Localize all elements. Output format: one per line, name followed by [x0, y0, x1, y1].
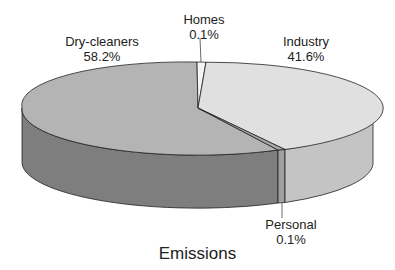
label-dry-cleaners: Dry-cleaners 58.2%	[52, 34, 152, 64]
label-personal-name: Personal	[256, 217, 326, 232]
label-dry-cleaners-name: Dry-cleaners	[52, 34, 152, 49]
chart-title: Emissions	[0, 244, 395, 264]
label-homes-name: Homes	[174, 12, 234, 27]
label-homes: Homes 0.1%	[174, 12, 234, 42]
label-industry-name: Industry	[266, 34, 346, 49]
label-homes-pct: 0.1%	[174, 27, 234, 42]
label-industry: Industry 41.6%	[266, 34, 346, 64]
label-dry-cleaners-pct: 58.2%	[52, 49, 152, 64]
label-personal: Personal 0.1%	[256, 217, 326, 247]
label-industry-pct: 41.6%	[266, 49, 346, 64]
slice-side-personal	[278, 150, 285, 204]
